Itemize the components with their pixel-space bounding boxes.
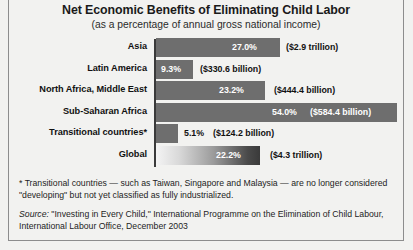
category-label: Asia xyxy=(0,41,147,51)
footnote-text: * Transitional countries — such as Taiwa… xyxy=(19,178,395,201)
bar-amount-label: ($4.3 trillion) xyxy=(270,150,322,160)
bar-amount-label: ($124.2 billion) xyxy=(213,128,274,138)
category-label: Transitional countries* xyxy=(0,127,147,137)
category-label: Sub-Saharan Africa xyxy=(0,106,147,116)
chart-row: Asia 27.0% ($2.9 trillion) xyxy=(0,38,413,59)
bar-asia xyxy=(156,38,280,57)
bar-amount-label: ($2.9 trillion) xyxy=(286,42,338,52)
source-line: Source: "Investing in Every Child," Inte… xyxy=(19,209,395,232)
chart-row: North Africa, Middle East 23.2% ($444.4 … xyxy=(0,81,413,102)
bar-global xyxy=(156,146,260,165)
bar-amount-label: ($444.4 billion) xyxy=(274,85,335,95)
notes-block: * Transitional countries — such as Taiwa… xyxy=(19,178,395,232)
bar-percent-label: 5.1% xyxy=(184,128,204,138)
bar-percent-label: 54.0% xyxy=(272,107,297,117)
bar-amount-label: ($584.4 billion) xyxy=(310,107,371,117)
category-label: Latin America xyxy=(0,63,147,73)
category-label: North Africa, Middle East xyxy=(0,84,147,94)
bar-percent-label: 9.3% xyxy=(161,64,181,74)
chart-title: Net Economic Benefits of Eliminating Chi… xyxy=(9,3,403,17)
bar-percent-label: 22.2% xyxy=(216,150,241,160)
plot-area: Asia 27.0% ($2.9 trillion) Latin America… xyxy=(0,38,413,168)
bar-transitional-countries xyxy=(156,124,178,143)
bar-percent-label: 27.0% xyxy=(232,42,257,52)
source-label: Source: xyxy=(19,209,49,219)
bar-amount-label: ($330.6 billion) xyxy=(200,64,261,74)
chart-row: Latin America 9.3% ($330.6 billion) xyxy=(0,60,413,81)
source-text: "Investing in Every Child," Internationa… xyxy=(19,209,384,231)
bar-north-africa-middle-east xyxy=(156,81,265,100)
chart-figure: Net Economic Benefits of Eliminating Chi… xyxy=(0,0,413,250)
bar-percent-label: 23.2% xyxy=(219,85,244,95)
chart-subtitle: (as a percentage of annual gross nationa… xyxy=(9,19,403,30)
chart-row: Sub-Saharan Africa 54.0% ($584.4 billion… xyxy=(0,103,413,124)
category-label: Global xyxy=(0,149,147,159)
chart-row: Transitional countries* 5.1% ($124.2 bil… xyxy=(0,124,413,145)
chart-row: Global 22.2% ($4.3 trillion) xyxy=(0,146,413,167)
